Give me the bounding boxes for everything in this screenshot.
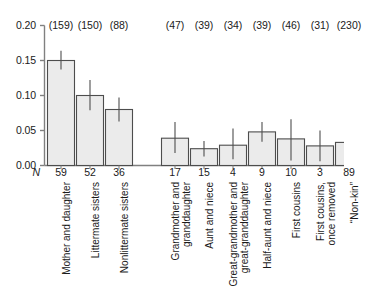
y-axis-tick-label: 0.15 (2, 55, 36, 66)
bar (336, 142, 345, 165)
y-axis-tick-label: 0.10 (2, 90, 36, 101)
x-axis-category-label: Half-aunt and niece (262, 182, 273, 269)
x-axis-category-label: Grandmother and (170, 182, 181, 260)
bar-n-value: 89 (331, 166, 366, 178)
x-axis-category-label: First cousins, (315, 182, 326, 241)
n-row-axis-label: N (24, 166, 40, 178)
y-axis-tick-label: 0.20 (2, 20, 36, 31)
x-axis-category-label: Littermate sisters (90, 182, 101, 258)
x-axis-category-label: once removed (326, 182, 337, 245)
bar-top-count-label: (230) (327, 19, 366, 31)
x-axis-category-label: great-granddaughter (239, 182, 250, 273)
x-axis-category-label: Great-grandmother and (228, 182, 239, 287)
bar-top-count-label: (88) (97, 19, 141, 31)
x-axis-category-label: Aunt and niece (204, 182, 215, 249)
x-axis-category-label: First cousins (291, 182, 302, 238)
x-axis-category-label: Nonlittermate sisters (119, 182, 130, 273)
bar-n-value: 36 (101, 166, 137, 178)
bar (48, 61, 75, 166)
x-axis-category-label: Mother and daughter (61, 182, 72, 275)
x-axis-category-label: granddaughter (181, 182, 192, 247)
y-axis-tick-label: 0.05 (2, 125, 36, 136)
x-axis-category-label: “Non-kin” (349, 182, 360, 223)
